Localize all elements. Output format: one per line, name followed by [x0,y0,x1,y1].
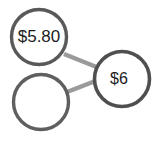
connector-top-line [64,54,99,68]
node-part-top-label: $5.80 [18,27,61,46]
node-whole-label: $6 [110,70,128,87]
node-part-bottom-circle[interactable] [14,75,69,130]
diagram-canvas: $5.80 $6 [0,0,156,142]
number-bond-diagram: $5.80 $6 [0,0,156,142]
